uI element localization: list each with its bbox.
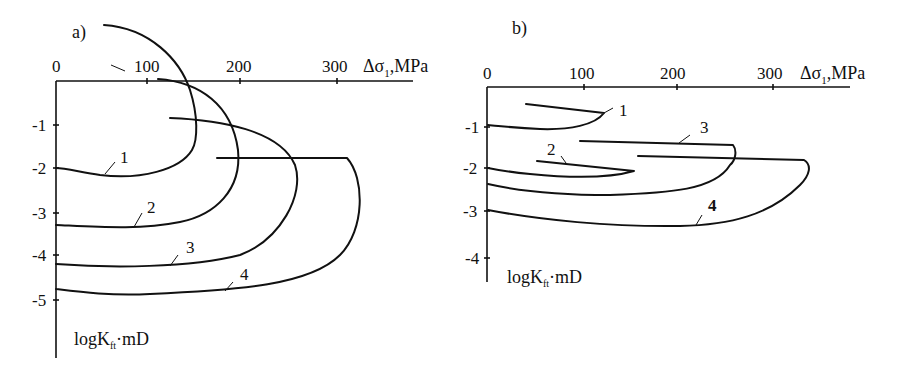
panel-b-curve-label: 1 (619, 101, 628, 120)
panel-a-label: a) (72, 22, 86, 43)
panel-b-xtick-label: 200 (660, 64, 686, 83)
panel-b-xtick-label: 0 (483, 64, 492, 83)
panel-b-leader (604, 108, 613, 113)
panel-a-ytick-label: -4 (32, 246, 47, 265)
panel-a-xtick-label: 0 (52, 57, 61, 76)
panel-b: b) 0 100 200 300 Δσ1,MPa -1 -2 -3 -4 log… (463, 18, 865, 289)
panel-b-label: b) (512, 18, 527, 39)
panel-b-leader (679, 135, 690, 143)
panel-b-ytick-label: -2 (463, 159, 477, 178)
figure: a) 0 100 200 300 Δσ1,MPa -1 -2 -3 -4 -5 … (0, 0, 910, 368)
panel-a-leader (134, 213, 142, 227)
panel-b-leader (696, 215, 702, 225)
panel-a-curve-label: 1 (120, 148, 129, 167)
panel-b-curve-2 (488, 161, 634, 177)
panel-a: a) 0 100 200 300 Δσ1,MPa -1 -2 -3 -4 -5 … (32, 22, 428, 358)
panel-a-ytick-label: -5 (32, 291, 46, 310)
panel-a-x-axis-title: Δσ1,MPa (363, 56, 428, 79)
panel-b-x-axis-title: Δσ1,MPa (800, 63, 865, 86)
panel-b-xtick-label: 100 (569, 64, 595, 83)
panel-b-curve-1 (488, 104, 604, 129)
panel-b-ytick-label: -1 (465, 118, 479, 137)
panel-a-curve-label: 4 (240, 265, 249, 284)
panel-a-ytick-label: -3 (32, 204, 46, 223)
panel-a-xtick-label: 200 (226, 57, 252, 76)
panel-b-ytick-label: -4 (465, 249, 480, 268)
panel-a-y-axis-title: logKft·mD (74, 329, 149, 351)
panel-a-ytick-label: -2 (32, 159, 46, 178)
panel-a-leader (105, 162, 115, 174)
panel-a-curve-3 (56, 118, 297, 266)
panel-b-curve-label: 3 (700, 118, 709, 137)
panel-b-ytick-label: -3 (463, 202, 477, 221)
panel-b-curve-label: 2 (547, 140, 556, 159)
panel-a-curve-label: 3 (186, 238, 195, 257)
panel-a-leader (111, 65, 125, 71)
panel-a-xtick-label: 100 (134, 57, 160, 76)
panel-b-xtick-label: 300 (757, 64, 783, 83)
panel-a-curve-label: 2 (147, 198, 156, 217)
panel-a-xtick-label: 300 (322, 57, 348, 76)
panel-b-leader (561, 156, 566, 163)
panel-b-y-axis-title: logKft·mD (507, 267, 582, 289)
panel-a-ytick-label: -1 (32, 116, 46, 135)
panel-b-curve-label: 4 (708, 196, 717, 215)
